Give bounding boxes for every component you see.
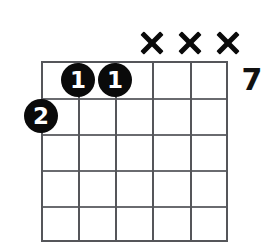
fret-line-3 — [41, 170, 228, 172]
finger-dot-string-1-fret-2: 2 — [24, 99, 58, 133]
chord-diagram: 1 1 2 7 — [0, 0, 274, 251]
fret-line-1 — [41, 98, 228, 100]
fret-line-nut — [41, 61, 228, 63]
finger-dot-string-2-fret-1: 1 — [61, 63, 95, 97]
finger-dot-string-3-fret-1: 1 — [98, 63, 132, 97]
fret-line-2 — [41, 134, 228, 136]
mute-x-icon-string-6 — [213, 28, 243, 58]
fret-line-5 — [41, 240, 228, 242]
fret-position-label: 7 — [242, 65, 263, 95]
string-line-6 — [226, 61, 228, 242]
mute-x-icon-string-4 — [137, 28, 167, 58]
string-line-5 — [190, 61, 192, 242]
string-line-4 — [152, 61, 154, 242]
fret-line-4 — [41, 206, 228, 208]
mute-x-icon-string-5 — [175, 28, 205, 58]
string-line-1 — [41, 61, 43, 242]
